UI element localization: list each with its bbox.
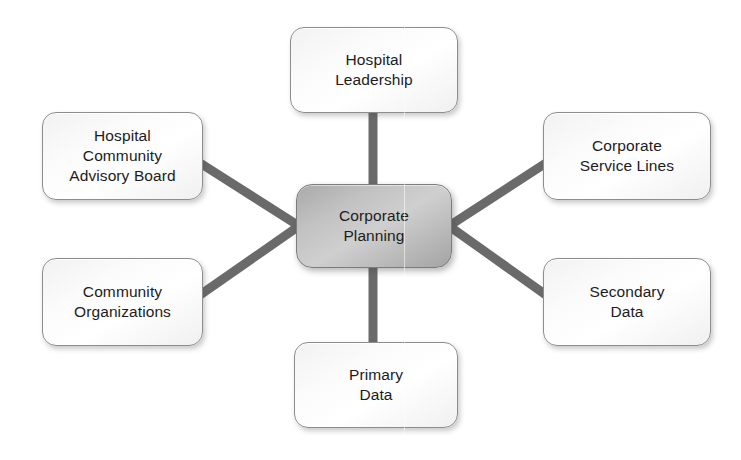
- node-secondary-data[interactable]: Secondary Data: [543, 258, 711, 346]
- node-community-organizations[interactable]: Community Organizations: [42, 258, 203, 346]
- node-corporate-planning[interactable]: Corporate Planning: [296, 184, 452, 268]
- node-hospital-community-advisory-board[interactable]: Hospital Community Advisory Board: [42, 112, 203, 200]
- connector-hub-to-community-organizations: [200, 226, 299, 295]
- connector-hub-to-corporate-service-lines: [449, 163, 546, 226]
- node-corporate-service-lines[interactable]: Corporate Service Lines: [543, 112, 711, 200]
- connector-hub-to-secondary-data: [449, 226, 546, 295]
- node-label-primary-data: Primary Data: [341, 365, 411, 405]
- node-label-hospital-community-advisory-board: Hospital Community Advisory Board: [61, 126, 184, 185]
- connector-hub-to-hospital-community-advisory-board: [200, 163, 299, 226]
- node-label-hospital-leadership: Hospital Leadership: [327, 50, 421, 90]
- node-label-corporate-service-lines: Corporate Service Lines: [572, 136, 682, 176]
- node-label-corporate-planning: Corporate Planning: [331, 206, 417, 246]
- node-hospital-leadership[interactable]: Hospital Leadership: [290, 27, 458, 113]
- node-label-community-organizations: Community Organizations: [66, 282, 179, 322]
- diagram-canvas: Hospital Leadership Corporate Service Li…: [0, 0, 741, 460]
- node-primary-data[interactable]: Primary Data: [294, 342, 458, 428]
- node-label-secondary-data: Secondary Data: [581, 282, 672, 322]
